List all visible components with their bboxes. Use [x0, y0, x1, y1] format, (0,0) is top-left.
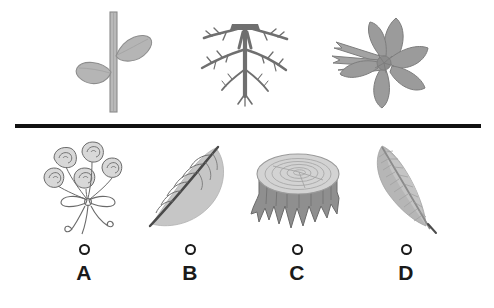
plant-roots-image	[182, 8, 308, 116]
radio-option-c[interactable]	[292, 244, 303, 255]
answer-option-b[interactable]: B	[136, 136, 244, 308]
answer-option-a[interactable]: A	[30, 136, 138, 308]
flower-image	[322, 8, 448, 116]
stem-with-leaves-image	[58, 8, 168, 116]
feather-image	[352, 136, 460, 236]
answer-option-c[interactable]: C	[243, 136, 351, 308]
answer-option-d[interactable]: D	[352, 136, 460, 308]
leaf-image	[136, 136, 244, 236]
radio-option-b[interactable]	[185, 244, 196, 255]
answer-options-row: A	[0, 136, 494, 308]
tree-stump-image	[243, 136, 351, 236]
bouquet-of-roses-image	[30, 136, 138, 236]
stimulus-row	[0, 0, 494, 120]
radio-option-a[interactable]	[79, 244, 90, 255]
radio-option-d[interactable]	[401, 244, 412, 255]
section-divider	[15, 124, 481, 128]
option-letter-b: B	[136, 262, 244, 283]
option-letter-d: D	[352, 262, 460, 283]
option-letter-c: C	[243, 262, 351, 283]
option-letter-a: A	[30, 262, 138, 283]
